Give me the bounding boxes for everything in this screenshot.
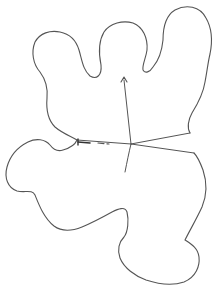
- background: [0, 0, 219, 293]
- sketch-canvas: [0, 0, 219, 293]
- outline-drawing: [0, 0, 219, 293]
- left-arrow-icon: [78, 142, 90, 143]
